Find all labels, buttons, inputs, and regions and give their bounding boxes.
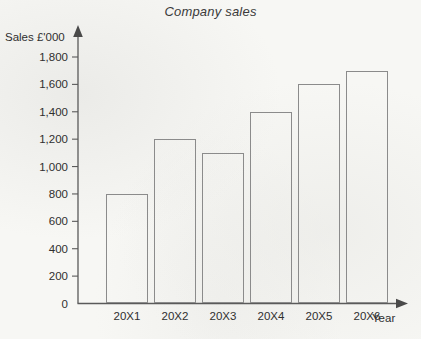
y-axis-tick-label: 1,000 [14, 161, 68, 173]
bar [106, 194, 148, 304]
y-axis-tick-label: 400 [14, 243, 68, 255]
bar [250, 112, 292, 304]
y-axis-tick-label: 1,200 [14, 133, 68, 145]
bar [154, 139, 196, 303]
bar [346, 71, 388, 304]
x-axis-arrowhead [396, 299, 408, 309]
y-axis-arrowhead [73, 25, 83, 37]
y-axis-group [73, 25, 83, 304]
x-axis-tick-label: 20X6 [337, 310, 397, 322]
bar [202, 153, 244, 304]
y-axis-tick-label: 0 [14, 298, 68, 310]
y-axis-tick-label: 1,600 [14, 78, 68, 90]
y-axis-tick-marks [72, 57, 78, 276]
y-axis-tick-label: 200 [14, 270, 68, 282]
bar [298, 84, 340, 303]
chart-figure: Company sales Sales £'000 Year 020040060… [0, 0, 421, 339]
y-axis-tick-label: 1,400 [14, 106, 68, 118]
y-axis-tick-label: 600 [14, 215, 68, 227]
y-axis-tick-label: 1,800 [14, 51, 68, 63]
y-axis-tick-label: 800 [14, 188, 68, 200]
